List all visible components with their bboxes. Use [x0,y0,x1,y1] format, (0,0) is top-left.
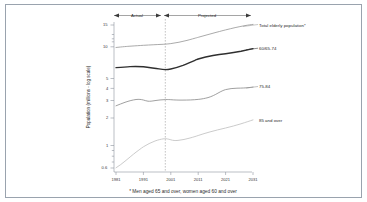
chart-frame: Actual Projected 15 10 [5,4,362,198]
series-label-75-84: 75-84 [259,84,271,89]
svg-text:5: 5 [106,76,109,81]
y-axis-ticks: 15 10 5 4 3 2 1 0. [102,22,115,170]
series-label-total-elderly-group: Total elderly population* [243,23,306,28]
series-line-60-65-74 [116,49,253,70]
series-label-85-and-over-group: 85 and over [259,118,283,123]
period-label-projected: Projected [198,13,217,18]
y-axis-title: Population (millions - log scale) [86,65,91,128]
series-label-60-65-74-group: 60/65-74 [246,46,277,51]
svg-text:10: 10 [103,44,108,49]
svg-text:3: 3 [106,98,109,103]
svg-text:0.6: 0.6 [102,165,108,170]
svg-text:1981: 1981 [111,177,121,182]
population-line-chart: Actual Projected 15 10 [6,5,361,197]
chart-footnote: * Men aged 65 and over, women aged 60 an… [129,189,237,194]
series-label-total-elderly: Total elderly population* [259,23,306,28]
svg-text:2021: 2021 [221,177,231,182]
arrow-left-projected-icon [164,13,169,17]
svg-text:2001: 2001 [166,177,176,182]
svg-text:2031: 2031 [248,177,258,182]
series-line-85-and-over [116,120,253,168]
series-line-total-elderly [116,24,253,47]
arrow-right-projected-icon [246,13,251,17]
series-line-75-84 [116,87,253,106]
svg-text:1: 1 [106,143,109,148]
arrow-left-actual-icon [114,13,119,17]
series-label-75-84-group: 75-84 [246,84,271,89]
period-band-projected: Projected [164,13,251,18]
series-label-60-65-74: 60/65-74 [259,46,277,51]
arrow-right-actual-icon [156,13,161,17]
chart-figure: Actual Projected 15 10 [0,0,367,202]
period-label-actual: Actual [131,13,143,18]
svg-text:4: 4 [106,86,109,91]
svg-text:2: 2 [106,115,109,120]
period-band-actual: Actual [114,13,161,18]
svg-text:2011: 2011 [194,177,204,182]
series-label-85-and-over: 85 and over [259,118,283,123]
svg-text:1991: 1991 [139,177,149,182]
svg-text:15: 15 [103,22,108,27]
x-axis-ticks: 1981 1991 2001 2011 2021 2031 [111,172,258,182]
